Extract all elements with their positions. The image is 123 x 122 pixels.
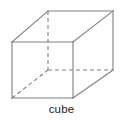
figure-caption-label: cube [0, 102, 123, 116]
cube-figure: cube [0, 0, 123, 122]
edge-top-left-receding [12, 11, 48, 42]
edge-top-right-receding [73, 11, 113, 42]
cube-receding-edges [12, 11, 113, 98]
cube-back-face-visible-edges [48, 11, 113, 70]
cube-hidden-edges [12, 11, 113, 98]
edge-bottom-left-receding-hidden [12, 70, 48, 98]
edge-bottom-right-receding [73, 70, 113, 98]
